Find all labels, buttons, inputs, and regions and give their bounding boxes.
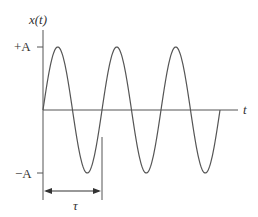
plus-a-label: +A — [14, 39, 31, 54]
y-axis-label: x(t) — [28, 12, 47, 27]
sine-wave-diagram: x(t) t +A −A τ — [0, 0, 258, 217]
period-label: τ — [73, 198, 79, 213]
minus-a-label: −A — [15, 166, 32, 181]
arrow-head-left-icon — [44, 188, 52, 194]
arrow-head-right-icon — [93, 188, 101, 194]
x-axis-label: t — [243, 102, 247, 117]
